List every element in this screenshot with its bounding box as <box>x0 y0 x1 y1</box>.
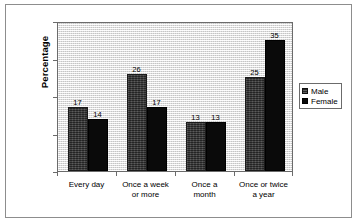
x-category-label-line1: Once a week <box>122 180 169 189</box>
bar-value-label: 13 <box>191 114 199 122</box>
x-tick-mark <box>175 172 176 176</box>
y-axis: 010203040 <box>0 0 57 180</box>
bar-value-label: 35 <box>270 32 278 40</box>
chart-figure: Percentage 010203040 1714261713132535 Ev… <box>0 0 357 223</box>
bar-male-3: 25 <box>245 77 265 171</box>
bar-value-label: 25 <box>250 69 258 77</box>
x-tick-mark <box>234 172 235 176</box>
x-category-label-line1: Every day <box>69 180 105 189</box>
x-category-label-line1: Once a <box>192 180 218 189</box>
x-axis-ticks <box>57 172 293 178</box>
bar-value-label: 17 <box>152 99 160 107</box>
bar-value-label: 14 <box>93 111 101 119</box>
legend-item-male[interactable]: Male <box>302 86 338 96</box>
x-category-label-line2: or more <box>116 190 175 200</box>
x-category-label-line1: Once or twice <box>239 180 288 189</box>
x-category-label: Every day <box>57 180 116 190</box>
x-category-label: Once amonth <box>175 180 234 200</box>
x-tick-mark <box>292 172 293 176</box>
bar-male-2: 13 <box>186 122 206 171</box>
legend-label: Male <box>311 87 328 96</box>
bar-female-3: 35 <box>265 40 285 171</box>
legend-item-female[interactable]: Female <box>302 96 338 106</box>
legend: MaleFemale <box>299 83 342 109</box>
bar-value-label: 17 <box>73 99 81 107</box>
legend-swatch-icon <box>302 88 308 94</box>
bar-female-1: 17 <box>147 107 167 171</box>
x-tick-mark <box>116 172 117 176</box>
x-category-label: Once a weekor more <box>116 180 175 200</box>
x-axis-labels: Every dayOnce a weekor moreOnce amonthOn… <box>57 180 293 214</box>
bar-female-0: 14 <box>88 119 108 172</box>
legend-label: Female <box>311 97 338 106</box>
x-category-label: Once or twicea year <box>234 180 293 200</box>
bar-male-0: 17 <box>68 107 88 171</box>
bar-female-2: 13 <box>206 122 226 171</box>
x-category-label-line2: month <box>175 190 234 200</box>
bar-value-label: 26 <box>132 66 140 74</box>
bar-male-1: 26 <box>127 74 147 172</box>
bar-value-label: 13 <box>211 114 219 122</box>
legend-swatch-icon <box>302 98 308 104</box>
x-category-label-line2: a year <box>234 190 293 200</box>
x-tick-mark <box>57 172 58 176</box>
plot-area: 1714261713132535 <box>57 22 293 172</box>
